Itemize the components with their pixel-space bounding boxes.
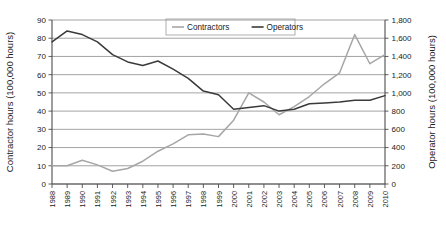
right-axis-tick-label: 800 xyxy=(392,107,406,116)
x-axis-tick-label: 2001 xyxy=(245,191,254,207)
right-axis-tick-label: 1,200 xyxy=(392,71,413,80)
left-axis-tick-label: 60 xyxy=(37,71,46,80)
x-axis-tick-label: 1990 xyxy=(78,191,87,207)
left-axis-tick-label: 30 xyxy=(37,125,46,134)
left-axis-tick-label: 90 xyxy=(37,16,46,25)
x-axis-tick-label: 1992 xyxy=(109,191,118,207)
right-axis-tick-label: 0 xyxy=(392,180,397,189)
left-axis-tick-label: 80 xyxy=(37,34,46,43)
x-axis-tick-label: 1999 xyxy=(215,191,224,207)
x-axis-tick-label: 1988 xyxy=(48,191,57,207)
x-axis-tick-label: 2009 xyxy=(366,191,375,207)
chart-container: 0102030405060708090 02004006008001,0001,… xyxy=(0,0,446,229)
left-axis-tick-label: 50 xyxy=(37,89,46,98)
x-axis-tick-label: 1991 xyxy=(93,191,102,207)
x-axis-tick-label: 1994 xyxy=(139,191,148,207)
left-axis-tick-label: 40 xyxy=(37,107,46,116)
x-axis-tick-label: 2000 xyxy=(230,191,239,207)
left-axis-title: Contractor hours (100,000 hours) xyxy=(4,32,15,172)
left-axis-tick-label: 0 xyxy=(42,180,47,189)
x-axis-tick-label: 1998 xyxy=(199,191,208,207)
x-axis-tick-label: 1997 xyxy=(184,191,193,207)
dual-axis-line-chart: 0102030405060708090 02004006008001,0001,… xyxy=(0,0,446,229)
x-axis-tick-label: 2010 xyxy=(381,191,390,207)
right-axis-tick-label: 200 xyxy=(392,162,406,171)
x-axis-tick-label: 1995 xyxy=(154,191,163,207)
x-axis-tick-label: 2005 xyxy=(305,191,314,207)
right-axis-tick-label: 1,800 xyxy=(392,16,413,25)
left-axis-tick-label: 70 xyxy=(37,52,46,61)
legend-label-contractors: Contractors xyxy=(187,23,229,32)
x-axis-tick-label: 2008 xyxy=(351,191,360,207)
x-axis-tick-label: 1993 xyxy=(124,191,133,207)
right-axis-title: Operator hours (100,000 hours) xyxy=(426,35,437,169)
right-axis-tick-label: 600 xyxy=(392,125,406,134)
right-axis-tick-label: 1,000 xyxy=(392,89,413,98)
legend-label-operators: Operators xyxy=(267,23,303,32)
x-axis-tick-label: 1996 xyxy=(169,191,178,207)
left-axis-tick-label: 20 xyxy=(37,143,46,152)
x-axis-tick-label: 2006 xyxy=(320,191,329,207)
left-axis-tick-label: 10 xyxy=(37,162,46,171)
x-axis-tick-label: 2003 xyxy=(275,191,284,207)
x-axis-tick-label: 2004 xyxy=(290,191,299,207)
right-axis-tick-label: 1,600 xyxy=(392,34,413,43)
x-axis-tick-label: 1989 xyxy=(63,191,72,207)
right-axis-tick-label: 1,400 xyxy=(392,52,413,61)
x-axis-tick-label: 2007 xyxy=(336,191,345,207)
right-axis-tick-label: 400 xyxy=(392,143,406,152)
x-axis-tick-label: 2002 xyxy=(260,191,269,207)
